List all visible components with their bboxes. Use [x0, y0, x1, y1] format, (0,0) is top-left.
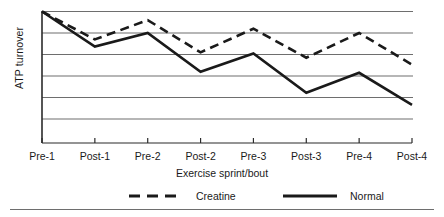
x-tick-label: Post-3	[276, 150, 336, 162]
data-series-layer	[42, 12, 412, 105]
legend-label-normal: Normal	[350, 190, 384, 202]
solid-line-icon	[282, 190, 338, 202]
x-tick-label: Pre-4	[329, 150, 389, 162]
gridlines	[42, 12, 413, 120]
legend-label-creatine: Creatine	[196, 190, 236, 202]
x-tick-label: Pre-2	[118, 150, 178, 162]
x-tick-marks	[42, 138, 412, 143]
bottom-divider	[10, 209, 434, 210]
x-tick-label: Pre-1	[12, 150, 72, 162]
x-tick-label: Post-2	[171, 150, 231, 162]
x-tick-label: Pre-3	[223, 150, 283, 162]
x-tick-label: Post-4	[382, 150, 442, 162]
chart-figure: ATP turnover Pre-1Post-1Pre-2Post-2Pre-3…	[0, 0, 444, 217]
chart-legend: Creatine Normal	[0, 188, 444, 204]
legend-item-normal: Normal	[282, 188, 384, 204]
x-tick-label: Post-1	[65, 150, 125, 162]
legend-item-creatine: Creatine	[128, 188, 236, 204]
series-line-creatine	[42, 12, 412, 65]
series-line-normal	[42, 12, 412, 105]
dashed-line-icon	[128, 190, 184, 202]
x-tick-labels: Pre-1Post-1Pre-2Post-2Pre-3Post-3Pre-4Po…	[0, 150, 444, 166]
plot-area	[0, 0, 444, 150]
x-axis-label: Exercise sprint/bout	[0, 167, 444, 179]
